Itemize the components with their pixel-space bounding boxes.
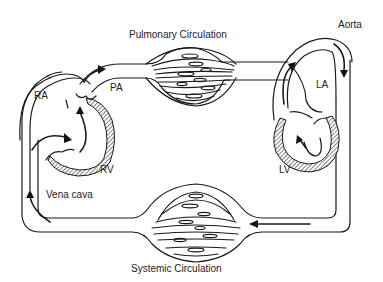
systemic-capillary-bed: [152, 192, 240, 256]
pulmonary-capillary-bed: [146, 48, 236, 106]
label-vena-cava: Vena cava: [46, 189, 93, 200]
systemic-flow-arrow: [249, 220, 310, 228]
right-heart: [20, 65, 115, 176]
left-heart: [273, 38, 352, 172]
circulation-diagram: Pulmonary Circulation Systemic Circulati…: [0, 0, 383, 282]
label-systemic-circulation: Systemic Circulation: [131, 263, 222, 274]
label-rv: RV: [100, 164, 114, 175]
label-aorta: Aorta: [338, 19, 362, 30]
label-pa: PA: [110, 82, 123, 93]
label-lv: LV: [279, 164, 291, 175]
label-pulmonary-circulation: Pulmonary Circulation: [129, 29, 227, 40]
label-ra: RA: [34, 90, 48, 101]
label-la: LA: [316, 79, 329, 90]
